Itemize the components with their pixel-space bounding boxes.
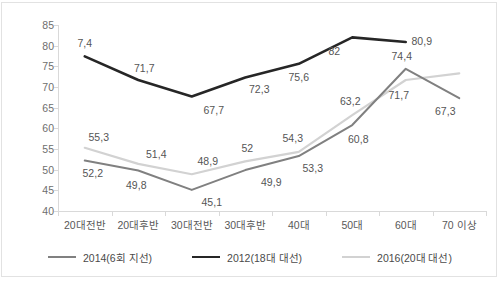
x-tick-mark bbox=[219, 211, 220, 216]
x-tick-mark bbox=[272, 211, 273, 216]
legend-label: 2012(18대 대선) bbox=[227, 250, 302, 265]
y-tick-mark bbox=[54, 46, 58, 47]
x-tick-label: 70 이상 bbox=[442, 219, 477, 232]
x-tick-label: 50대 bbox=[341, 219, 363, 232]
y-tick-label: 45 bbox=[24, 185, 54, 195]
y-tick-mark bbox=[54, 190, 58, 191]
y-tick-label: 40 bbox=[24, 206, 54, 216]
x-axis-labels: 20대전반20대후반30대전반30대후반40대50대60대70 이상 bbox=[58, 219, 486, 239]
x-tick-mark bbox=[486, 211, 487, 216]
y-tick-label: 75 bbox=[24, 61, 54, 71]
y-tick-label: 80 bbox=[24, 41, 54, 51]
chart-frame: 85807570656055504540 20대전반20대후반30대전반30대후… bbox=[1, 2, 497, 277]
series-line bbox=[85, 73, 460, 174]
x-tick-label: 20대전반 bbox=[64, 219, 106, 232]
legend-swatch-icon bbox=[48, 256, 76, 258]
legend-item[interactable]: 2014(6회 지선) bbox=[48, 250, 152, 265]
y-tick-mark bbox=[54, 66, 58, 67]
x-tick-label: 60대 bbox=[395, 219, 417, 232]
x-tick-label: 30대후반 bbox=[224, 219, 266, 232]
y-tick-mark bbox=[54, 149, 58, 150]
x-tick-mark bbox=[433, 211, 434, 216]
x-tick-mark bbox=[165, 211, 166, 216]
legend-label: 2016(20대 대선) bbox=[377, 250, 452, 265]
x-tick-label: 40대 bbox=[288, 219, 310, 232]
plot-area bbox=[58, 25, 486, 211]
legend-item[interactable]: 2016(20대 대선) bbox=[342, 250, 452, 265]
legend-label: 2014(6회 지선) bbox=[83, 250, 152, 265]
legend-item[interactable]: 2012(18대 대선) bbox=[192, 250, 302, 265]
y-tick-mark bbox=[54, 128, 58, 129]
legend-swatch-icon bbox=[192, 256, 220, 258]
series-line bbox=[85, 69, 460, 190]
series-line bbox=[85, 37, 406, 96]
x-tick-label: 30대전반 bbox=[171, 219, 213, 232]
y-axis: 85807570656055504540 bbox=[16, 25, 54, 211]
legend-swatch-icon bbox=[342, 256, 370, 258]
y-tick-label: 85 bbox=[24, 20, 54, 30]
y-tick-mark bbox=[54, 25, 58, 26]
x-tick-mark bbox=[58, 211, 59, 216]
chart-legend: 2014(6회 지선)2012(18대 대선)2016(20대 대선) bbox=[2, 247, 498, 267]
y-tick-label: 65 bbox=[24, 103, 54, 113]
x-tick-mark bbox=[379, 211, 380, 216]
y-tick-label: 60 bbox=[24, 123, 54, 133]
x-tick-mark bbox=[112, 211, 113, 216]
x-tick-mark bbox=[326, 211, 327, 216]
x-tick-label: 20대후반 bbox=[117, 219, 159, 232]
y-tick-label: 70 bbox=[24, 82, 54, 92]
y-tick-mark bbox=[54, 170, 58, 171]
y-tick-mark bbox=[54, 87, 58, 88]
y-tick-label: 50 bbox=[24, 165, 54, 175]
y-tick-label: 55 bbox=[24, 144, 54, 154]
series-lines bbox=[58, 25, 486, 211]
y-tick-mark bbox=[54, 108, 58, 109]
